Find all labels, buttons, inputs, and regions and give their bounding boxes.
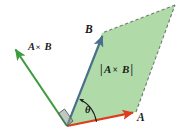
- vector-diagram-canvas: A B A × B | A × B | θ: [0, 0, 192, 138]
- parallelogram-area: [67, 5, 175, 126]
- cross-product-label-a: A: [27, 41, 35, 52]
- magnitude-bar-open: |: [100, 63, 103, 76]
- cross-product-diagram: A B A × B | A × B | θ: [0, 0, 192, 138]
- cross-magnitude-label: | A × B |: [100, 63, 133, 76]
- magnitude-label-times: ×: [113, 65, 118, 75]
- magnitude-label-b: B: [121, 63, 129, 75]
- magnitude-bar-close: |: [131, 63, 134, 76]
- magnitude-label-a: A: [103, 63, 111, 75]
- vector-a-label: A: [136, 111, 145, 123]
- cross-product-label-b: B: [44, 41, 52, 52]
- vector-b-label: B: [84, 23, 93, 35]
- angle-theta-label: θ: [85, 104, 91, 115]
- cross-product-label: A × B: [27, 41, 52, 52]
- cross-product-label-times: ×: [36, 42, 41, 52]
